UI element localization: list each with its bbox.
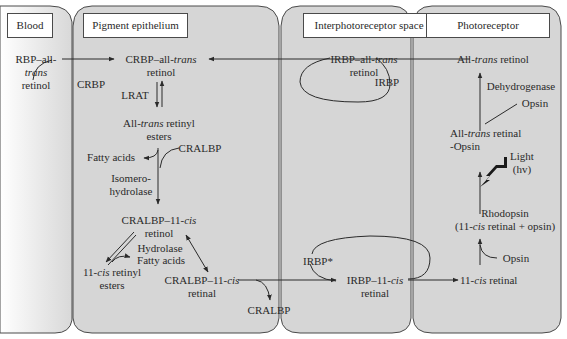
crbp-all-trans-retinol: CRBP–all-trans retinol — [118, 53, 204, 79]
text: retinyl — [110, 266, 141, 278]
text: -Opsin — [450, 140, 480, 152]
text: Rhodopsin — [481, 207, 529, 219]
text: CRBP–all- — [126, 53, 174, 65]
crbp-label: CRBP — [75, 78, 107, 91]
text: retinal — [361, 287, 389, 299]
text: trans — [174, 53, 197, 65]
text: IRBP–all- — [330, 53, 375, 65]
text: retinal — [188, 287, 216, 299]
text: All- — [457, 53, 475, 65]
text: hydrolase — [110, 185, 153, 197]
cralbp-label-1: CRALBP — [177, 142, 223, 155]
light-label: Light (hv) — [506, 150, 538, 176]
pigment-epithelium-header: Pigment epithelium — [83, 13, 188, 38]
text: cis — [184, 214, 196, 226]
text: Light — [510, 150, 534, 162]
lrat-label: LRAT — [120, 89, 150, 102]
cralbp-11-cis-retinol: CRALBP–11-cis retinol — [118, 214, 200, 240]
text: esters — [99, 279, 124, 291]
text: retinol — [497, 53, 528, 65]
text: IRBP–11- — [347, 274, 391, 286]
text: trans — [468, 127, 491, 139]
photoreceptor-header: Photoreceptor — [426, 13, 550, 38]
all-trans-retinyl-esters: All-trans retinyl esters — [118, 117, 200, 143]
text: trans — [141, 117, 164, 129]
text: cis — [97, 266, 109, 278]
blood-header: Blood — [7, 13, 53, 38]
opsin-label-2: Opsin — [499, 252, 533, 265]
irbp-11-cis-retinal: IRBP–11-cis retinal — [342, 274, 408, 300]
text: CRALBP–11- — [122, 214, 185, 226]
text: RBP–all- — [16, 53, 57, 65]
irbp-label: IRBP — [372, 76, 402, 89]
text: (11- — [455, 220, 473, 232]
text: 11- — [460, 274, 474, 286]
fatty-acids-label-1: Fatty acids — [82, 151, 140, 164]
text: cis — [227, 274, 239, 286]
cralbp-label-2: CRALBP — [246, 304, 292, 317]
opsin-label-1: Opsin — [518, 97, 552, 110]
text: retinyl — [163, 117, 194, 129]
text: retinal — [487, 274, 518, 286]
text: Isomero- — [111, 172, 151, 184]
text: retinol — [147, 66, 176, 78]
11-cis-retinal: 11-cis retinal — [460, 274, 530, 287]
text: (hv) — [513, 163, 531, 175]
text: cis — [473, 220, 485, 232]
text: 11- — [83, 266, 97, 278]
text: retinal + opsin) — [485, 220, 555, 232]
rbp-all-trans-retinol: RBP–all- trans retinol — [10, 53, 62, 92]
text: retinol — [22, 79, 51, 91]
interphotoreceptor-header: Interphotoreceptor space — [303, 13, 435, 38]
text: esters — [146, 130, 171, 142]
text: All- — [450, 127, 468, 139]
text: cis — [474, 274, 486, 286]
irbp-star-label: IRBP* — [302, 255, 334, 268]
text: trans — [25, 66, 48, 78]
11-cis-retinyl-esters: 11-cis retinyl esters — [78, 266, 146, 292]
text: trans — [375, 53, 398, 65]
isomerohydrolase-label: Isomero- hydrolase — [106, 172, 156, 198]
dehydrogenase-label: Dehydrogenase — [483, 80, 559, 93]
rhodopsin: Rhodopsin (11-cis retinal + opsin) — [446, 207, 564, 233]
text: cis — [391, 274, 403, 286]
text: retinal — [490, 127, 521, 139]
photoreceptor-all-trans-retinol: All-trans retinol — [450, 53, 536, 66]
text: trans — [475, 53, 498, 65]
text: All- — [123, 117, 141, 129]
text: CRALBP–11- — [165, 274, 228, 286]
text: retinol — [145, 227, 174, 239]
cralbp-11-cis-retinal: CRALBP–11-cis retinal — [162, 274, 242, 300]
